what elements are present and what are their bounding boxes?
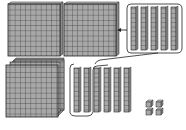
base-ten-diagram — [0, 0, 186, 130]
unit-cube-2 — [156, 100, 163, 107]
flat-hundred-1 — [8, 2, 63, 56]
rod-4 — [161, 6, 168, 50]
rod-b6 — [124, 67, 131, 112]
rod-5 — [171, 6, 178, 50]
unit-cube-1 — [146, 100, 153, 107]
rod-b5 — [114, 67, 121, 112]
rod-group-ten-rods — [127, 4, 182, 53]
rod-b1 — [74, 67, 81, 112]
bottom-rods — [70, 64, 131, 116]
unit-cubes — [146, 100, 163, 115]
unit-cube-4 — [156, 108, 163, 115]
rod-2 — [141, 6, 148, 50]
rod-b4 — [104, 67, 111, 112]
stacked-flats — [6, 58, 64, 117]
flat-hundred-2 — [64, 2, 119, 56]
rod-b2 — [84, 67, 91, 112]
unit-cube-3 — [146, 108, 153, 115]
rod-3 — [151, 6, 158, 50]
rod-b3 — [94, 67, 101, 112]
rod-1 — [131, 6, 138, 50]
